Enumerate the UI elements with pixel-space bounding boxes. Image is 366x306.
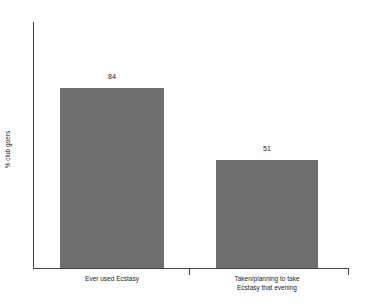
x-axis-category-label-line: Taken/planning to take [199, 274, 335, 283]
bar-taken-planning-that-evening [216, 160, 318, 268]
x-axis-category-label: Taken/planning to take Ecstasy that even… [199, 274, 335, 292]
bar-chart: % club goers 84 51 Ever used Ecstasy Tak… [0, 0, 366, 306]
bar-value-label: 51 [216, 144, 318, 153]
x-axis-category-label-line: Ever used Ecstasy [44, 274, 180, 283]
x-axis-category-label-line: Ecstasy that evening [199, 283, 335, 292]
bar-ever-used-ecstasy [60, 88, 164, 268]
bar-value-label: 84 [60, 72, 164, 81]
x-axis-category-label: Ever used Ecstasy [44, 274, 180, 283]
plot-area [0, 0, 366, 306]
